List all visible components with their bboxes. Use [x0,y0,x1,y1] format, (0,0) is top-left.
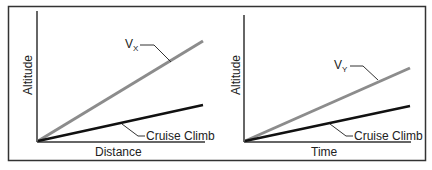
vy-label: VY [334,58,348,74]
vx-label: VX [125,37,139,53]
left-cruise-leader-line [122,124,145,136]
climb-diagram: VX Cruise Climb Distance Altitude VY Cru… [0,0,432,170]
right-y-axis-label: Altitude [229,55,243,95]
right-x-axis-label: Time [311,145,338,159]
left-x-axis-label: Distance [95,145,142,159]
left-chart: VX Cruise Climb Distance Altitude [21,11,215,159]
right-cruise-climb-label: Cruise Climb [354,129,423,143]
right-chart: VY Cruise Climb Time Altitude [229,15,423,159]
right-cruise-leader-line [330,124,353,136]
left-y-axis-label: Altitude [21,55,35,95]
left-cruise-climb-label: Cruise Climb [146,129,215,143]
vy-leader-line [350,66,378,80]
vx-leader-line [140,45,171,62]
vx-line [38,41,203,141]
